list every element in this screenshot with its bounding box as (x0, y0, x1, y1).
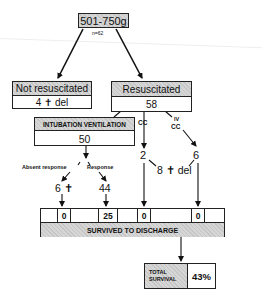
total-survival-label-cell: TOTAL SURVIVAL (145, 264, 188, 288)
total-survival-value-cell: 43% (188, 264, 215, 288)
survived-cell-value: 0 (142, 211, 147, 221)
intubation-value: 50 (79, 133, 91, 145)
connector-arrows (0, 0, 262, 303)
resuscitated-title: Resuscitated (123, 84, 181, 95)
total-survival-value: 43% (192, 271, 211, 282)
not-resuscitated-header: Not resuscitated (13, 82, 91, 96)
resuscitated-value: 58 (146, 99, 157, 110)
intubation-header: INTUBATION VENTILATION (35, 118, 134, 131)
absent-response-value: 6 ✝ (55, 182, 73, 194)
survived-cell-value: 25 (103, 211, 112, 221)
cc-label: CC (138, 119, 147, 126)
resuscitated-header: Resuscitated (112, 82, 191, 97)
iv-label: IV (174, 116, 179, 122)
survived-cell-cc: 0 (137, 209, 151, 222)
not-resuscitated-title: Not resuscitated (16, 83, 88, 94)
absent-response-label: Absent response (22, 164, 67, 170)
intubation-ventilation-node: INTUBATION VENTILATION 50 (34, 117, 135, 146)
iv-cc-label: CC (171, 123, 180, 130)
survived-title: SURVIVED TO DISCHARGE (87, 227, 178, 234)
root-count: n=62 (92, 30, 103, 36)
survived-cell-absent-response: 0 (57, 209, 71, 222)
resuscitated-node: Resuscitated 58 (111, 81, 192, 112)
survival-label: SURVIVAL (149, 276, 187, 283)
not-resuscitated-node: Not resuscitated 4 ✝ del (12, 81, 92, 109)
not-resuscitated-value: 4 ✝ del (36, 97, 68, 108)
response-value: 44 (99, 182, 111, 194)
cc-deaths-value: 8 ✝ del (157, 164, 192, 176)
cc-value: 2 (140, 149, 146, 161)
total-survival-node: TOTAL SURVIVAL 43% (144, 263, 216, 289)
survived-cell-value: 0 (62, 211, 67, 221)
not-resuscitated-body: 4 ✝ del (13, 96, 91, 109)
intubation-body: 50 (35, 131, 134, 146)
survived-header: SURVIVED TO DISCHARGE (41, 223, 224, 237)
survived-cell-response: 25 (98, 209, 118, 222)
survived-cell-value: 0 (196, 211, 201, 221)
resuscitated-body: 58 (112, 97, 191, 112)
intubation-title: INTUBATION VENTILATION (43, 121, 126, 128)
iv-cc-value: 6 (193, 149, 199, 161)
survived-cell-iv-cc: 0 (191, 209, 205, 222)
survived-to-discharge-node: 0 25 0 0 SURVIVED TO DISCHARGE (40, 208, 225, 237)
root-node-weight-group: 501-750g (78, 13, 129, 28)
root-label: 501-750g (80, 15, 127, 27)
total-label: TOTAL (149, 269, 187, 276)
survived-cells-row: 0 25 0 0 (41, 209, 224, 223)
response-label: Response (87, 164, 113, 170)
